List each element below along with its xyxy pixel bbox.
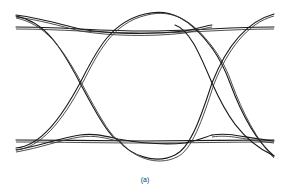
eye-diagram [0, 0, 290, 193]
upper-rail-traces [16, 15, 274, 35]
transition-traces [16, 12, 274, 161]
figure-caption: (a) [0, 176, 290, 183]
lower-rail-traces [16, 134, 274, 152]
